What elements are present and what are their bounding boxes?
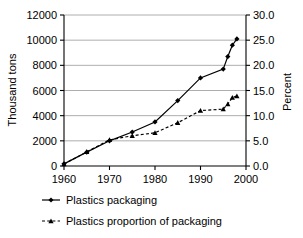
y2-tick-label: 0.0 — [253, 160, 268, 172]
y2-tick-label: 20.0 — [253, 59, 274, 71]
y2-axis-title: Percent — [281, 73, 293, 111]
y-tick-label: 6000 — [33, 85, 57, 97]
y-tick-label: 12000 — [26, 9, 57, 21]
y2-tick-label: 15.0 — [253, 85, 274, 97]
y-tick-label: 0 — [51, 160, 57, 172]
y-tick-label: 4000 — [33, 110, 57, 122]
x-tick-label: 1990 — [188, 173, 212, 185]
x-tick-label: 1960 — [52, 173, 76, 185]
y-tick-label: 8000 — [33, 59, 57, 71]
y-tick-label: 10000 — [26, 34, 57, 46]
legend-label-1: Plastics packaging — [66, 194, 157, 206]
x-tick-label: 1970 — [97, 173, 121, 185]
y2-tick-label: 10.0 — [253, 110, 274, 122]
x-tick-label: 2000 — [234, 173, 258, 185]
x-tick-label: 1980 — [143, 173, 167, 185]
chart-container: 020004000600080001000012000 0.05.010.015… — [0, 0, 303, 238]
y-tick-label: 2000 — [33, 135, 57, 147]
y2-tick-label: 30.0 — [253, 9, 274, 21]
y2-tick-label: 25.0 — [253, 34, 274, 46]
y2-tick-label: 5.0 — [253, 135, 268, 147]
y-axis-title: Thousand tons — [6, 53, 18, 126]
legend-item-2: Plastics proportion of packaging — [42, 215, 222, 227]
line-chart: 020004000600080001000012000 0.05.010.015… — [0, 0, 303, 238]
legend-label-2: Plastics proportion of packaging — [66, 215, 222, 227]
